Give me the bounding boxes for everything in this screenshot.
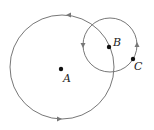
geometry-diagram: A B C: [0, 0, 154, 130]
arrow-bottom-large-icon: [57, 117, 62, 122]
label-a: A: [62, 72, 71, 85]
diagram-canvas: A B C: [0, 0, 154, 130]
point-b: [107, 45, 111, 49]
label-c: C: [134, 60, 143, 73]
large-circle: [10, 15, 114, 119]
small-circle: [83, 18, 137, 72]
point-a: [59, 67, 63, 71]
label-b: B: [112, 36, 121, 49]
arrow-top-large-icon: [66, 13, 71, 18]
arrow-left-small-icon: [81, 43, 86, 48]
arrow-right-small-icon: [135, 42, 140, 47]
